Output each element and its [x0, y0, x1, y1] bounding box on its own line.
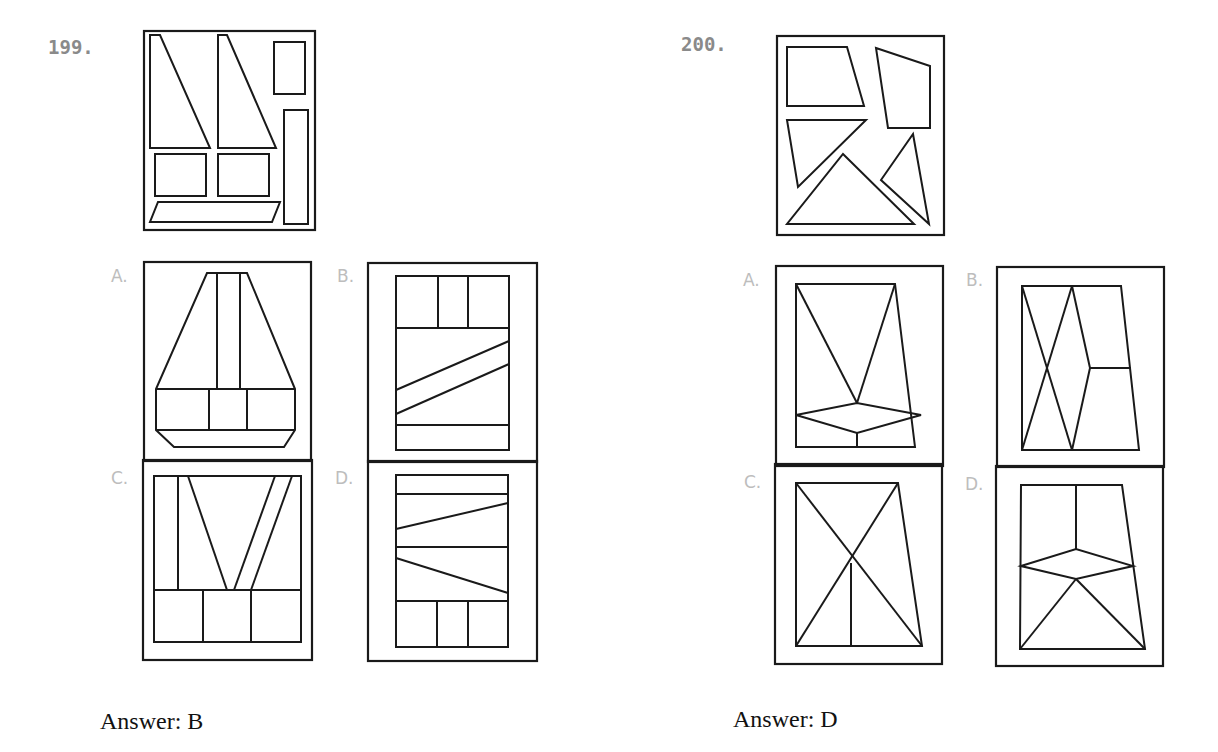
q199-stem-figure	[143, 30, 318, 232]
q199-option-b-figure[interactable]	[367, 262, 539, 463]
q199-option-c-label: C.	[111, 468, 128, 488]
q200-option-d-label: D.	[965, 474, 984, 494]
q199-option-a-figure[interactable]	[143, 261, 313, 462]
q200-option-a-label: A.	[743, 270, 760, 290]
q200-option-b-figure[interactable]	[996, 266, 1166, 468]
q200-option-a-figure[interactable]	[775, 265, 945, 467]
q199-option-b-label: B.	[337, 266, 354, 286]
question-number-200: 200.	[681, 33, 727, 55]
q199-option-a-label: A.	[111, 266, 128, 286]
question-number-199: 199.	[48, 36, 94, 58]
q199-option-d-label: D.	[335, 468, 354, 488]
q200-option-c-figure[interactable]	[774, 463, 944, 666]
q199-answer: Answer: B	[100, 708, 203, 735]
q200-stem-figure	[776, 35, 946, 237]
q200-answer: Answer: D	[733, 706, 838, 733]
q200-option-c-label: C.	[744, 472, 761, 492]
q199-option-d-figure[interactable]	[367, 460, 539, 662]
q199-option-c-figure[interactable]	[142, 459, 313, 661]
q200-option-b-label: B.	[966, 270, 983, 290]
q200-option-d-figure[interactable]	[995, 465, 1165, 668]
